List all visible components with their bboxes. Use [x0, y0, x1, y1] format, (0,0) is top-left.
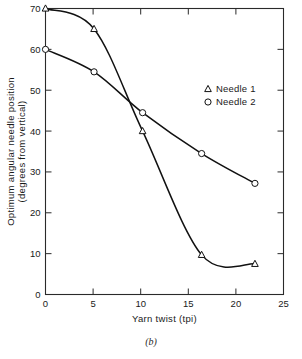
legend-marker-circle [205, 99, 211, 105]
series-line-2 [46, 49, 255, 183]
y-tick-label: 0 [35, 289, 40, 300]
x-tick-label: 10 [135, 298, 146, 309]
y-tick-label: 50 [30, 85, 41, 96]
y-axis-title-line1: Optimum angular needle position [5, 77, 16, 226]
data-point-circle [42, 46, 48, 52]
legend-marker-triangle [205, 85, 212, 91]
data-point-triangle [139, 127, 146, 133]
plot-frame [46, 9, 284, 295]
y-axis-title-line2: (degrees from vertical) [16, 101, 27, 203]
series-line-1 [46, 9, 255, 268]
legend-label-2: Needle 2 [216, 96, 256, 107]
x-tick-label: 5 [90, 298, 95, 309]
x-tick-label: 0 [43, 298, 48, 309]
chart-canvas: 0510152025010203040506070Yarn twist (tpi… [0, 0, 302, 359]
legend-label-1: Needle 1 [216, 83, 256, 94]
y-tick-label: 20 [30, 207, 41, 218]
figure-panel: 0510152025010203040506070Yarn twist (tpi… [0, 0, 302, 359]
x-tick-label: 20 [231, 298, 242, 309]
data-point-circle [91, 69, 97, 75]
y-tick-label: 70 [30, 3, 41, 14]
data-point-circle [252, 180, 258, 186]
y-tick-label: 30 [30, 166, 41, 177]
data-point-circle [199, 150, 205, 156]
y-tick-label: 40 [30, 126, 41, 137]
data-point-circle [140, 110, 146, 116]
x-tick-label: 15 [183, 298, 194, 309]
x-axis-title: Yarn twist (tpi) [132, 313, 197, 324]
x-tick-label: 25 [278, 298, 289, 309]
y-tick-label: 60 [30, 44, 41, 55]
figure-caption: (b) [0, 336, 302, 347]
y-tick-label: 10 [30, 248, 41, 259]
